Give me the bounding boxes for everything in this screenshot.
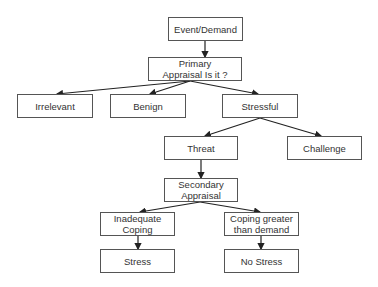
node-primary-appraisal: Primary Appraisal Is it ?	[148, 57, 242, 81]
edge-stressful-challenge	[260, 118, 321, 136]
node-stress: Stress	[100, 249, 175, 273]
edge-primary-stressful	[190, 81, 258, 94]
node-challenge: Challenge	[287, 136, 362, 160]
node-event-demand: Event/Demand	[168, 17, 243, 41]
edge-secondary-coping	[200, 202, 260, 212]
node-benign: Benign	[110, 94, 186, 118]
node-irrelevant: Irrelevant	[17, 94, 93, 118]
edge-secondary-inadequate	[140, 202, 200, 212]
node-no-stress: No Stress	[224, 249, 299, 273]
edge-stressful-threat	[205, 118, 260, 136]
node-inadequate-coping: Inadequate Coping	[100, 212, 175, 236]
node-coping-greater: Coping greater than demand	[224, 212, 299, 236]
node-threat: Threat	[164, 136, 238, 160]
node-stressful: Stressful	[222, 94, 298, 118]
node-secondary-appraisal: Secondary Appraisal	[164, 178, 238, 202]
